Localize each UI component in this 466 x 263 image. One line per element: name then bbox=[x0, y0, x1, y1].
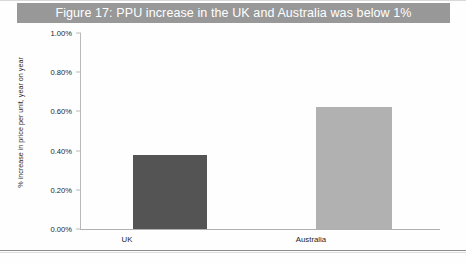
chart-plot-area: % increase in price per unit, year on ye… bbox=[0, 23, 466, 250]
figure-page: Figure 17: PPU increase in the UK and Au… bbox=[0, 0, 466, 263]
y-tick-label: 1.00% bbox=[12, 29, 72, 38]
x-category-label-uk: UK bbox=[90, 235, 164, 244]
x-axis-line bbox=[80, 229, 440, 230]
y-tick-label: 0.60% bbox=[12, 107, 72, 116]
y-tick-label: 0.00% bbox=[12, 225, 72, 234]
page-top-rule bbox=[0, 0, 466, 1]
y-tick-label: 0.20% bbox=[12, 185, 72, 194]
x-category-label-australia: Australia bbox=[273, 235, 349, 244]
bar-uk[interactable] bbox=[133, 155, 207, 229]
bar-series bbox=[80, 33, 440, 229]
page-bottom-rule-shadow bbox=[0, 252, 466, 253]
page-bottom-rule bbox=[0, 250, 466, 251]
y-tick-label: 0.80% bbox=[12, 68, 72, 77]
figure-title: Figure 17: PPU increase in the UK and Au… bbox=[55, 6, 411, 20]
y-tick-label: 0.40% bbox=[12, 146, 72, 155]
figure-title-band: Figure 17: PPU increase in the UK and Au… bbox=[17, 3, 450, 23]
bar-australia[interactable] bbox=[316, 107, 392, 229]
